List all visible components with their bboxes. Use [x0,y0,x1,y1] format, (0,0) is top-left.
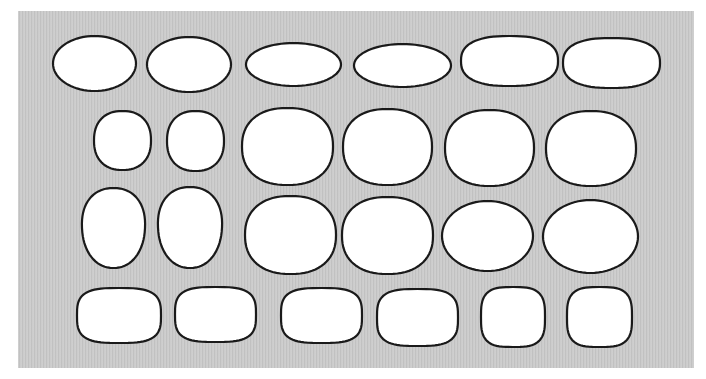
squircle-shape [481,287,545,347]
rounded-circle-shape [245,196,336,274]
ellipse-shape [354,44,451,87]
ellipse-shape [53,36,136,91]
squircle-shape [175,287,256,342]
ellipse-shape [543,200,638,273]
squircle-shape [377,289,458,346]
squircle-shape [567,287,632,347]
squircle-shape [281,288,362,343]
rounded-circle-shape [445,110,534,186]
shape-row-3 [82,187,638,274]
rounded-circle-shape [242,108,333,185]
rounded-ellipse-shape [563,38,660,88]
rounded-circle-shape [546,111,636,186]
ellipse-shape [246,43,341,86]
ellipse-shape [442,201,533,271]
rounded-circle-shape [94,111,151,170]
rounded-circle-shape [342,197,433,274]
rounded-circle-shape [167,111,224,171]
squircle-shape [77,288,161,343]
shape-row-1 [53,36,660,92]
shape-row-4 [77,287,632,347]
egg-shape [158,187,222,268]
rounded-circle-shape [343,109,432,185]
ellipse-shape [147,37,231,92]
rounded-ellipse-shape [461,36,558,86]
egg-shape [82,188,145,268]
shape-row-2 [94,108,636,186]
shape-grid [0,0,706,379]
